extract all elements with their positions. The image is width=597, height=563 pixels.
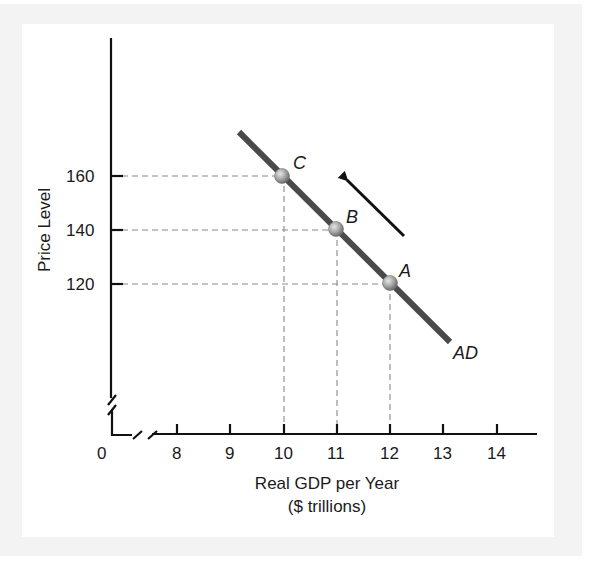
- x-tick-label-8: 8: [172, 444, 181, 463]
- y-axis-title: Price Level: [35, 188, 54, 272]
- x-axis-title: Real GDP per Year: [255, 474, 400, 493]
- x-tick-label-origin: 0: [97, 444, 106, 463]
- point-b-label: B: [346, 207, 358, 227]
- point-a-label: A: [398, 261, 411, 281]
- point-a-marker: [383, 276, 398, 291]
- x-axis: [133, 424, 537, 439]
- point-c-marker: [275, 169, 290, 184]
- ad-curve-label: AD: [452, 343, 478, 363]
- x-tick-label-9: 9: [225, 444, 234, 463]
- point-b-marker: [329, 222, 344, 237]
- ad-curve: [239, 132, 450, 342]
- aggregate-demand-chart: 160 140 120 0 8 9 10 11 12 13 14 Price L…: [0, 0, 597, 563]
- y-tick-label-140: 140: [66, 221, 94, 240]
- x-axis-units: ($ trillions): [288, 497, 366, 516]
- x-tick-label-12: 12: [380, 444, 399, 463]
- x-tick-label-14: 14: [487, 444, 506, 463]
- y-axis: [108, 38, 132, 435]
- x-tick-label-11: 11: [327, 444, 345, 463]
- x-tick-label-13: 13: [433, 444, 452, 463]
- y-tick-label-120: 120: [66, 275, 94, 294]
- x-tick-label-10: 10: [274, 444, 293, 463]
- point-c-label: C: [293, 153, 307, 173]
- y-tick-label-160: 160: [66, 167, 94, 186]
